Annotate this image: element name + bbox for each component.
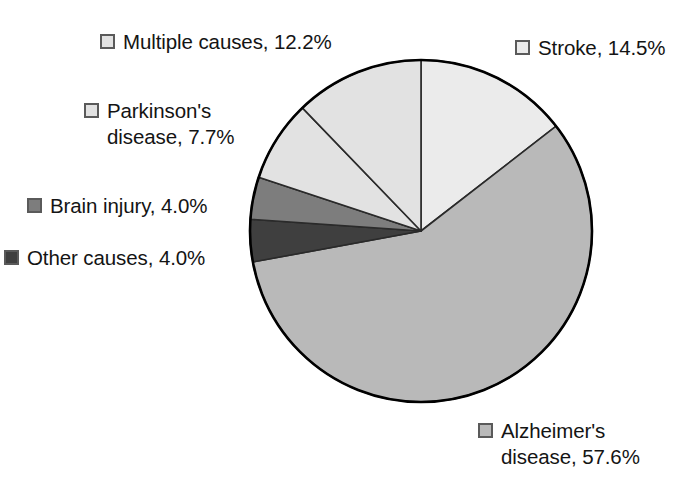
legend-label-brain-injury: Brain injury, 4.0%	[50, 193, 207, 219]
legend-label-parkinsons-line1: Parkinson's	[107, 99, 211, 122]
legend-label-parkinsons: Parkinson'sdisease, 7.7%	[107, 98, 234, 150]
legend-label-stroke: Stroke, 14.5%	[538, 35, 665, 61]
legend-item-other-causes[interactable]: Other causes, 4.0%	[4, 245, 205, 271]
pie-svg	[0, 0, 697, 482]
legend-item-multiple-causes[interactable]: Multiple causes, 12.2%	[100, 29, 332, 55]
legend-swatch-other-causes	[4, 250, 19, 265]
legend-item-alzheimers[interactable]: Alzheimer'sdisease, 57.6%	[478, 418, 640, 470]
legend-label-parkinsons-line2: disease, 7.7%	[107, 125, 234, 148]
legend-label-multiple-causes: Multiple causes, 12.2%	[123, 29, 332, 55]
legend-item-brain-injury[interactable]: Brain injury, 4.0%	[27, 193, 207, 219]
legend-item-parkinsons[interactable]: Parkinson'sdisease, 7.7%	[84, 98, 234, 150]
legend-label-alzheimers: Alzheimer'sdisease, 57.6%	[501, 418, 640, 470]
legend-label-other-causes: Other causes, 4.0%	[27, 245, 205, 271]
legend-label-alzheimers-line1: Alzheimer's	[501, 419, 605, 442]
pie-chart-figure: Multiple causes, 12.2% Parkinson'sdiseas…	[0, 0, 697, 482]
pie-graphic	[0, 0, 697, 482]
legend-label-alzheimers-line2: disease, 57.6%	[501, 445, 640, 468]
legend-item-stroke[interactable]: Stroke, 14.5%	[515, 35, 665, 61]
legend-swatch-multiple-causes	[100, 34, 115, 49]
legend-swatch-stroke	[515, 40, 530, 55]
legend-swatch-parkinsons	[84, 103, 99, 118]
pie-slice-group	[250, 60, 592, 402]
legend-swatch-alzheimers	[478, 423, 493, 438]
legend-swatch-brain-injury	[27, 198, 42, 213]
